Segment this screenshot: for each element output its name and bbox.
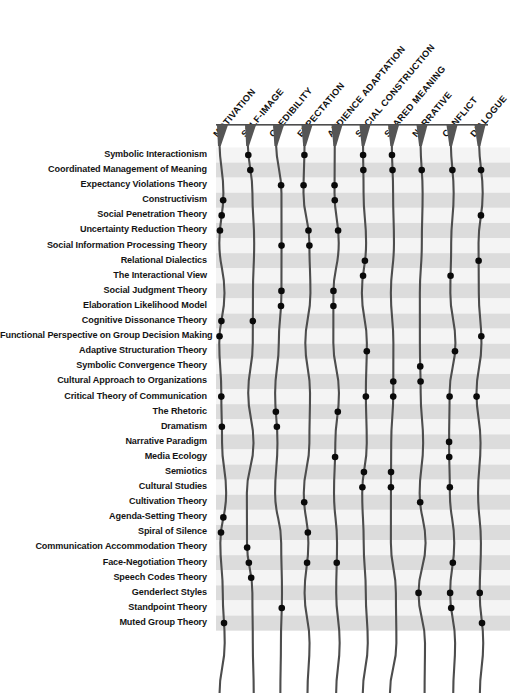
row-stripe xyxy=(216,616,510,631)
matrix-dot xyxy=(446,439,453,446)
matrix-dot xyxy=(331,197,338,204)
matrix-dot xyxy=(217,227,224,234)
matrix-dot xyxy=(274,424,281,431)
row-stripes xyxy=(216,147,510,630)
row-label: Elaboration Likelihood Model xyxy=(0,298,213,313)
row-label: Symbolic Interactionism xyxy=(0,147,213,162)
row-label: Face-Negotiation Theory xyxy=(0,555,213,570)
matrix-dot xyxy=(479,620,486,627)
matrix-dot xyxy=(473,393,480,400)
thread-spool xyxy=(273,125,284,146)
matrix-dot xyxy=(220,514,227,521)
theory-matrix-figure: MOTIVATIONSELF-IMAGECREDIBILITYEXPECTATI… xyxy=(0,0,510,693)
row-stripe xyxy=(216,223,510,238)
row-label: Uncertainty Reduction Theory xyxy=(0,222,213,237)
matrix-dot xyxy=(446,393,453,400)
matrix-dot xyxy=(305,529,312,536)
matrix-dot xyxy=(415,590,422,597)
matrix-dot xyxy=(278,242,285,249)
matrix-dot xyxy=(390,393,397,400)
matrix-dot xyxy=(278,182,285,189)
matrix-dot xyxy=(452,348,459,355)
matrix-dot xyxy=(218,393,225,400)
row-label: The Interactional View xyxy=(0,268,213,283)
matrix-dot xyxy=(330,303,337,310)
thread-spool xyxy=(475,125,486,146)
row-stripe xyxy=(216,404,510,419)
matrix-dot xyxy=(447,273,454,280)
matrix-dot xyxy=(417,363,424,370)
thread-spool xyxy=(388,125,399,146)
row-label: Communication Accommodation Theory xyxy=(0,539,213,554)
matrix-dot xyxy=(301,152,308,159)
matrix-dot xyxy=(418,167,425,174)
row-stripe xyxy=(216,555,510,570)
row-label: Expectancy Violations Theory xyxy=(0,177,213,192)
row-label: Cognitive Dissonance Theory xyxy=(0,313,213,328)
matrix-dot xyxy=(306,242,313,249)
matrix-dot xyxy=(250,318,257,325)
row-label: Adaptive Structuration Theory xyxy=(0,343,213,358)
matrix-dot xyxy=(417,378,424,385)
matrix-dot xyxy=(361,469,368,476)
row-label: Symbolic Convergence Theory xyxy=(0,358,213,373)
matrix-dot xyxy=(390,378,397,385)
matrix-dot xyxy=(450,559,457,566)
column-header-group: MOTIVATIONSELF-IMAGECREDIBILITYEXPECTATI… xyxy=(0,0,510,132)
matrix-grid xyxy=(216,143,510,693)
matrix-dot xyxy=(332,454,339,461)
row-label: Relational Dialectics xyxy=(0,253,213,268)
matrix-dot xyxy=(218,529,225,536)
row-label: Social Information Processing Theory xyxy=(0,238,213,253)
matrix-dot xyxy=(273,408,280,415)
matrix-dot xyxy=(363,348,370,355)
matrix-dot xyxy=(362,257,369,264)
matrix-dot xyxy=(388,469,395,476)
row-stripe xyxy=(216,585,510,600)
matrix-dot xyxy=(278,303,285,310)
matrix-dot xyxy=(246,559,253,566)
matrix-dot xyxy=(448,605,455,612)
matrix-dot xyxy=(220,197,227,204)
matrix-dot xyxy=(219,424,226,431)
matrix-dot xyxy=(363,393,370,400)
row-stripe xyxy=(216,374,510,389)
matrix-dot xyxy=(218,212,225,219)
row-label: Media Ecology xyxy=(0,449,213,464)
thread-spool xyxy=(360,125,371,146)
row-label: Coordinated Management of Meaning xyxy=(0,162,213,177)
row-label: Agenda-Setting Theory xyxy=(0,509,213,524)
row-label: Social Judgment Theory xyxy=(0,283,213,298)
matrix-dot xyxy=(330,288,337,295)
thread-spool xyxy=(447,125,458,146)
row-label: Dramatism xyxy=(0,419,213,434)
matrix-dot xyxy=(216,333,223,340)
matrix-dot xyxy=(278,288,285,295)
row-label: Functional Perspective on Group Decision… xyxy=(0,328,213,343)
matrix-dot xyxy=(245,152,252,159)
row-stripe xyxy=(216,419,510,434)
matrix-dot xyxy=(478,333,485,340)
row-stripe xyxy=(216,449,510,464)
row-stripe xyxy=(216,344,510,359)
matrix-dot xyxy=(359,484,366,491)
matrix-dot xyxy=(247,167,254,174)
row-label: Critical Theory of Communication xyxy=(0,389,213,404)
thread-spool xyxy=(332,125,343,146)
row-label: Cultivation Theory xyxy=(0,494,213,509)
matrix-dot xyxy=(244,544,251,551)
matrix-dot xyxy=(478,167,485,174)
row-stripe xyxy=(216,434,510,449)
row-stripe xyxy=(216,570,510,585)
matrix-dot xyxy=(300,182,307,189)
thread-spool xyxy=(217,125,228,146)
matrix-dot xyxy=(475,257,482,264)
matrix-dot xyxy=(476,590,483,597)
thread-spool xyxy=(245,125,256,146)
row-stripe xyxy=(216,600,510,615)
matrix-dot xyxy=(446,454,453,461)
thread-spool-group xyxy=(216,124,510,150)
matrix-dot xyxy=(335,408,342,415)
matrix-dot xyxy=(447,484,454,491)
row-label: Semiotics xyxy=(0,464,213,479)
